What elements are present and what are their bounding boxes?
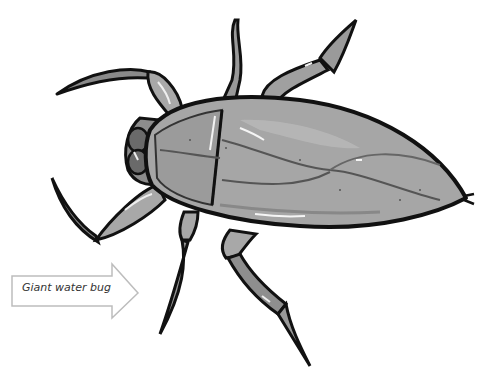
upper-middle-leg [224,20,241,98]
lower-middle-leg [160,212,198,334]
label-text: Giant water bug [22,281,111,294]
lower-right-leg [223,230,310,366]
front-lower-leg [52,178,165,242]
body [146,97,474,227]
front-left-leg [57,70,182,116]
upper-right-leg [262,20,356,104]
giant-water-bug-illustration [0,0,484,369]
